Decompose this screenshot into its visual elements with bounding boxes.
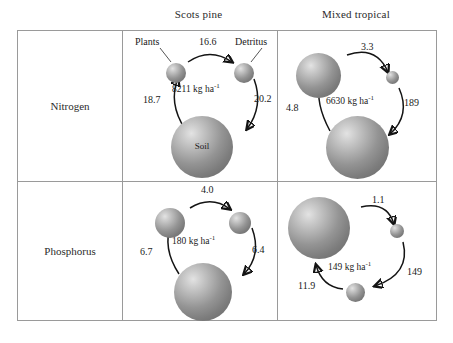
flux-label-plants-to-detritus: 3.3 bbox=[361, 41, 374, 52]
pool-sphere-detritus bbox=[234, 63, 254, 83]
pool-label-detritus: Detritus bbox=[235, 36, 267, 47]
pool-sphere-soil bbox=[346, 283, 365, 302]
soil-stock-unit: kg ha bbox=[189, 236, 210, 246]
pool-sphere-detritus bbox=[390, 224, 404, 238]
flux-label-soil-to-plants: 6.7 bbox=[140, 246, 153, 257]
column-header-mixed-tropical: Mixed tropical bbox=[276, 8, 436, 20]
pool-sphere-soil bbox=[326, 116, 389, 179]
flux-label-soil-to-plants: 11.9 bbox=[298, 280, 315, 291]
flux-label-soil-to-plants: 4.8 bbox=[286, 102, 299, 113]
soil-stock-number: 149 bbox=[328, 262, 342, 272]
row-label-phosphorus: Phosphorus bbox=[18, 245, 122, 257]
row-label-nitrogen: Nitrogen bbox=[18, 100, 122, 112]
soil-stock-label: 180 kg ha-1 bbox=[172, 234, 215, 246]
soil-stock-exponent: -1 bbox=[365, 260, 371, 268]
cell-phosphorus-scots-pine: 4.0 6.4 6.7 180 kg ha-1 bbox=[123, 182, 277, 321]
soil-stock-label: 6630 kg ha-1 bbox=[326, 94, 374, 106]
pool-sphere-soil bbox=[174, 263, 232, 321]
pool-sphere-detritus bbox=[229, 212, 251, 234]
flux-label-detritus-to-soil: 20.2 bbox=[254, 93, 272, 104]
flux-label-plants-to-detritus: 16.6 bbox=[199, 36, 217, 47]
flux-label-detritus-to-soil: 189 bbox=[404, 97, 419, 108]
soil-stock-label: 8211 kg ha-1 bbox=[172, 82, 220, 94]
flux-label-plants-to-detritus: 1.1 bbox=[372, 194, 385, 205]
soil-stock-exponent: -1 bbox=[368, 94, 374, 102]
soil-stock-unit: kg ha bbox=[345, 262, 366, 272]
soil-stock-number: 180 bbox=[172, 236, 186, 246]
pool-sphere-soil: Soil bbox=[171, 116, 233, 178]
flux-label-detritus-to-soil: 149 bbox=[407, 266, 422, 277]
pool-sphere-detritus bbox=[386, 71, 399, 84]
soil-stock-unit: kg ha bbox=[347, 96, 368, 106]
pool-sphere-soil-label: Soil bbox=[171, 141, 233, 151]
pool-sphere-plants bbox=[296, 53, 341, 98]
soil-stock-exponent: -1 bbox=[214, 82, 220, 90]
pool-label-plants: Plants bbox=[135, 36, 159, 47]
pool-sphere-plants bbox=[288, 197, 350, 259]
cell-nitrogen-mixed-tropical: 3.3 189 4.8 6630 kg ha-1 bbox=[278, 31, 437, 181]
nutrient-cycling-figure: Scots pine Mixed tropical Nitrogen Phosp… bbox=[0, 0, 453, 343]
cell-nitrogen-scots-pine: Soil Plants Detritus 16.6 20.2 18.7 8211… bbox=[123, 31, 277, 181]
column-header-scots-pine: Scots pine bbox=[121, 8, 276, 20]
flux-label-soil-to-plants: 18.7 bbox=[143, 94, 161, 105]
soil-stock-exponent: -1 bbox=[209, 234, 215, 242]
soil-stock-number: 8211 bbox=[172, 84, 191, 94]
soil-stock-label: 149 kg ha-1 bbox=[328, 260, 371, 272]
cell-phosphorus-mixed-tropical: 1.1 149 11.9 149 kg ha-1 bbox=[278, 182, 437, 321]
diagram-table: Nitrogen Phosphorus Soil Plan bbox=[17, 30, 437, 321]
flux-label-detritus-to-soil: 6.4 bbox=[252, 244, 265, 255]
soil-stock-number: 6630 bbox=[326, 96, 345, 106]
flux-label-plants-to-detritus: 4.0 bbox=[201, 184, 214, 195]
soil-stock-unit: kg ha bbox=[193, 84, 214, 94]
pool-sphere-plants bbox=[166, 63, 186, 83]
